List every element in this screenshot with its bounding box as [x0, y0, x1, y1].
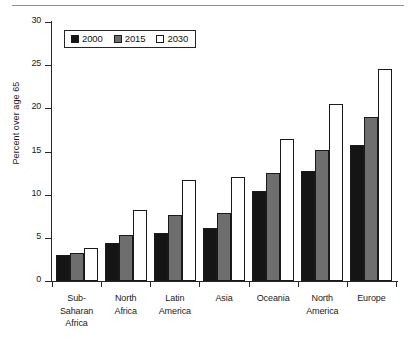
bar-2000 — [301, 171, 315, 281]
y-tick-label-30: 30 — [31, 15, 41, 25]
y-tick-0: 0 — [45, 281, 52, 282]
legend-swatch-2015 — [114, 35, 122, 43]
bar-group — [154, 22, 196, 281]
bar-group — [252, 22, 294, 281]
bar-2000 — [105, 243, 119, 281]
x-tick — [101, 282, 102, 287]
y-tick-label-20: 20 — [31, 101, 41, 111]
x-tick — [150, 282, 151, 287]
bar-2015 — [266, 173, 280, 281]
bar-chart-figure: Percent over age 65 051015202530 Sub-Sah… — [0, 0, 409, 345]
y-tick-label-25: 25 — [31, 58, 41, 68]
legend-entry-2015: 2015 — [114, 34, 146, 44]
plot-area — [52, 22, 396, 281]
bar-2030 — [84, 248, 98, 281]
bar-group — [56, 22, 98, 281]
bar-2015 — [217, 213, 231, 281]
bar-2015 — [168, 215, 182, 281]
y-tick-20: 20 — [45, 108, 52, 109]
y-tick-15: 15 — [45, 152, 52, 153]
x-tick — [347, 282, 348, 287]
category-label-line: America — [139, 305, 211, 318]
bar-2000 — [154, 233, 168, 281]
legend-entry-2030: 2030 — [156, 34, 188, 44]
bar-2030 — [280, 139, 294, 281]
legend-swatch-2000 — [71, 35, 79, 43]
x-tick — [249, 282, 250, 287]
y-tick-label-5: 5 — [36, 231, 41, 241]
x-tick — [199, 282, 200, 287]
legend-label-2015: 2015 — [125, 34, 146, 44]
bar-2030 — [231, 177, 245, 281]
bar-group — [105, 22, 147, 281]
legend-swatch-2030 — [156, 35, 164, 43]
bar-group — [301, 22, 343, 281]
category-label-line: Africa — [41, 317, 113, 330]
legend-label-2030: 2030 — [167, 34, 188, 44]
bar-2015 — [315, 150, 329, 281]
bar-2000 — [203, 228, 217, 281]
bar-2000 — [350, 145, 364, 281]
category-label-line: America — [286, 305, 358, 318]
y-tick-25: 25 — [45, 65, 52, 66]
bar-2015 — [70, 253, 84, 281]
y-tick-5: 5 — [45, 238, 52, 239]
x-tick — [396, 282, 397, 287]
bar-2030 — [182, 180, 196, 281]
bar-group — [203, 22, 245, 281]
chart-legend: 200020152030 — [64, 30, 196, 48]
y-axis-title: Percent over age 65 — [11, 63, 21, 183]
y-tick-label-10: 10 — [31, 188, 41, 198]
x-tick — [52, 282, 53, 287]
bar-2030 — [133, 210, 147, 281]
bar-2015 — [364, 117, 378, 281]
x-tick — [298, 282, 299, 287]
bar-2015 — [119, 235, 133, 281]
legend-label-2000: 2000 — [82, 34, 103, 44]
y-tick-30: 30 — [45, 22, 52, 23]
bar-2030 — [378, 69, 392, 281]
y-tick-label-15: 15 — [31, 145, 41, 155]
bar-2030 — [329, 104, 343, 281]
legend-entry-2000: 2000 — [71, 34, 103, 44]
y-tick-10: 10 — [45, 195, 52, 196]
category-label-line: Europe — [335, 292, 407, 305]
bar-2000 — [252, 191, 266, 281]
category-label: Europe — [335, 292, 407, 305]
bar-2000 — [56, 255, 70, 281]
y-tick-label-0: 0 — [36, 274, 41, 284]
bar-group — [350, 22, 392, 281]
